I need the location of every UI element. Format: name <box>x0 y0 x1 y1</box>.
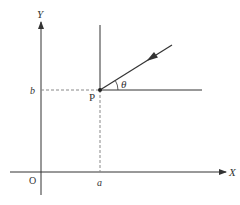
b-coordinate-label: b <box>30 85 35 96</box>
angle-arc <box>115 81 118 91</box>
coordinate-diagram: Y X O P b a θ <box>0 0 240 205</box>
x-axis-label: X <box>228 166 237 178</box>
point-p-dot <box>98 88 102 92</box>
ray-arrowhead-icon <box>147 52 159 61</box>
point-p-label: P <box>89 91 95 103</box>
theta-label: θ <box>121 78 127 90</box>
y-axis-label: Y <box>37 8 45 20</box>
origin-label: O <box>29 175 36 186</box>
diagram-canvas: Y X O P b a θ <box>0 0 240 205</box>
incoming-ray <box>100 45 172 90</box>
a-coordinate-label: a <box>97 177 102 188</box>
